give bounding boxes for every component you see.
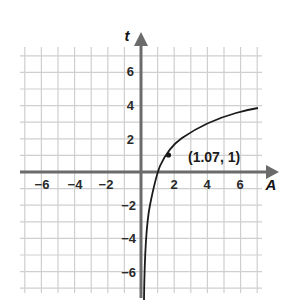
y-tick-label: −6 [121, 265, 136, 280]
y-axis-label: t [125, 27, 131, 44]
graph: −6 −4 −2 2 4 6 6 4 2 −2 −4 −6 t A (1.07,… [0, 0, 295, 305]
y-tick-label: 4 [127, 98, 135, 113]
x-tick-label: −6 [35, 177, 50, 192]
y-tick-label: 2 [127, 132, 134, 147]
x-tick-label: −2 [99, 177, 114, 192]
x-tick-label: 2 [170, 177, 177, 192]
y-tick-label: −4 [121, 231, 137, 246]
y-tick-label: −2 [121, 198, 136, 213]
x-tick-label: 6 [236, 177, 243, 192]
x-axis-label: A [265, 176, 277, 193]
y-axis-arrow-icon [134, 32, 148, 46]
data-point [166, 152, 171, 157]
y-tick-label: 6 [127, 64, 134, 79]
x-tick-label: 4 [203, 177, 211, 192]
x-tick-label: −4 [68, 177, 84, 192]
point-label: (1.07, 1) [188, 149, 240, 165]
x-tick-labels: −6 −4 −2 2 4 6 [35, 177, 244, 192]
